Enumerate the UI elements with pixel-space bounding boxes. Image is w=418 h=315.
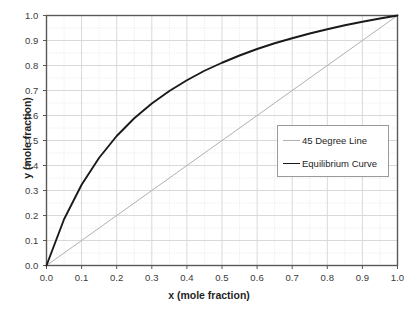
x-tick-label: 0.1: [67, 272, 97, 283]
legend-item-equilibrium-curve: Equilibrium Curve: [283, 157, 377, 169]
x-axis-title: x (mole fraction): [0, 289, 418, 301]
legend-item-45-degree-line: 45 Degree Line: [283, 134, 367, 146]
x-tick-label: 0.6: [242, 272, 272, 283]
x-tick-label: 0.3: [137, 272, 167, 283]
y-tick-label: 0.1: [9, 235, 39, 246]
x-tick-label: 0.7: [277, 272, 307, 283]
x-tick-label: 0.5: [207, 272, 237, 283]
y-tick-label: 0.9: [9, 35, 39, 46]
y-axis-title: y (mole fraction): [21, 58, 33, 218]
x-tick-label: 0.4: [172, 272, 202, 283]
y-tick-label: 0.0: [9, 260, 39, 271]
equilibrium-diagram: 0.00.10.20.30.40.50.60.70.80.91.0 0.00.1…: [0, 0, 418, 315]
x-tick-label: 0.2: [102, 272, 132, 283]
legend-label-equilibrium-curve: Equilibrium Curve: [302, 158, 377, 169]
x-tick-label: 0.8: [312, 272, 342, 283]
y-tick-label: 1.0: [9, 10, 39, 21]
x-tick-label: 0.9: [347, 272, 377, 283]
legend-swatch-45-degree-line: [283, 140, 300, 141]
x-tick-label: 0.0: [32, 272, 62, 283]
legend-swatch-equilibrium-curve: [283, 163, 300, 164]
x-tick-label: 1.0: [383, 272, 413, 283]
legend-label-45-degree-line: 45 Degree Line: [302, 135, 367, 146]
legend: 45 Degree Line Equilibrium Curve: [277, 125, 389, 177]
